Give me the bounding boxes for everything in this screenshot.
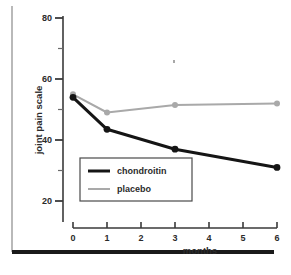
chart-legend[interactable]: chondroitinplacebo — [80, 158, 192, 201]
x-axis-tick-label: 0 — [70, 233, 75, 243]
x-axis-tick-label: 2 — [138, 233, 143, 243]
data-point-placebo[interactable] — [274, 100, 280, 106]
legend-box — [80, 158, 192, 201]
x-axis-tick-label: 1 — [104, 233, 109, 243]
legend-label-placebo: placebo — [117, 184, 152, 194]
data-point-placebo[interactable] — [172, 102, 178, 108]
chart-svg: 80604020 0123456 joint pain scale months… — [0, 0, 291, 275]
x-axis-tick-labels: 0123456 — [70, 233, 279, 243]
figure-container: 80604020 0123456 joint pain scale months… — [0, 0, 291, 275]
x-axis-tick-label: 4 — [206, 233, 211, 243]
x-axis-tick-label: 6 — [274, 233, 279, 243]
y-axis-title: joint pain scale — [33, 86, 44, 156]
data-point-chondroitin[interactable] — [274, 164, 281, 171]
y-axis-ticks — [55, 18, 63, 201]
x-axis-tick-label: 5 — [240, 233, 245, 243]
y-axis-tick-label: 60 — [42, 74, 52, 84]
data-point-chondroitin[interactable] — [70, 94, 77, 101]
y-axis-tick-label: 20 — [42, 196, 52, 206]
y-axis-tick-label: 80 — [42, 13, 52, 23]
data-point-chondroitin[interactable] — [172, 146, 179, 153]
data-point-placebo[interactable] — [104, 110, 110, 116]
data-point-chondroitin[interactable] — [104, 126, 111, 133]
x-axis-ticks — [73, 222, 277, 228]
line-chart-plot: 80604020 0123456 joint pain scale months… — [0, 0, 291, 275]
legend-label-chondroitin: chondroitin — [117, 166, 167, 176]
x-axis-tick-label: 3 — [172, 233, 177, 243]
x-axis-title: months — [183, 245, 217, 256]
